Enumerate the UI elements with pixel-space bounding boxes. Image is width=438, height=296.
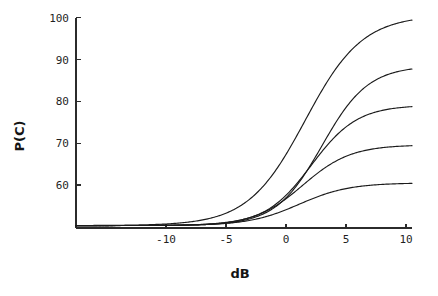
x-axis-tick-label: 10: [399, 233, 412, 246]
y-axis-tick-label: 100: [49, 12, 69, 25]
x-axis-title: dB: [230, 266, 249, 281]
chart-plot-area: 60708090100 -10-50510 P(C) dB: [0, 0, 438, 296]
y-axis-ticks: [76, 18, 81, 185]
x-axis-tick-label: -10: [156, 233, 176, 246]
y-axis-tick-label: 60: [56, 179, 69, 192]
chart-curve: [76, 107, 412, 226]
chart-curve: [76, 69, 412, 226]
chart-curve: [76, 20, 412, 225]
y-axis-tick-label: 90: [56, 54, 69, 67]
x-axis-tick-label: 5: [343, 233, 350, 246]
y-axis-tick-labels: 60708090100: [49, 12, 69, 192]
y-axis-title: P(C): [12, 121, 27, 152]
x-axis-tick-label: -5: [219, 233, 232, 246]
y-axis-tick-label: 80: [56, 95, 69, 108]
x-axis-tick-label: 0: [283, 233, 290, 246]
y-axis-tick-label: 70: [56, 137, 69, 150]
x-axis-tick-labels: -10-50510: [156, 233, 413, 246]
chart-series-group: [76, 20, 412, 225]
chart-figure: 60708090100 -10-50510 P(C) dB: [0, 0, 438, 296]
